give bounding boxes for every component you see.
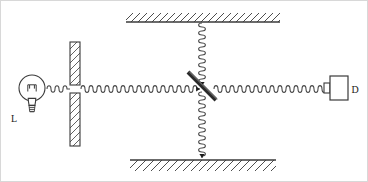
source-label: L (11, 113, 17, 124)
wave-splitter-to-bottom-mirror (199, 92, 206, 158)
wave-slit-to-splitter (81, 86, 200, 93)
top-hatched-wall (117, 13, 294, 22)
wave-splitter-to-detector (214, 86, 328, 93)
wave-source-to-slit (47, 86, 70, 92)
bulb-neck (28, 98, 36, 105)
detector-label: D (351, 84, 358, 95)
light-bulb (19, 75, 45, 112)
detector-box (324, 76, 348, 100)
bottom-hatched-wall (119, 160, 290, 171)
bulb-glass-icon (19, 75, 45, 101)
interferometer-figure: L D (0, 0, 368, 182)
wave-splitter-to-top-mirror (199, 23, 206, 86)
bulb-screw-base-icon (29, 105, 35, 111)
diagram-canvas: L D (0, 0, 368, 182)
figure-border (1, 1, 368, 182)
